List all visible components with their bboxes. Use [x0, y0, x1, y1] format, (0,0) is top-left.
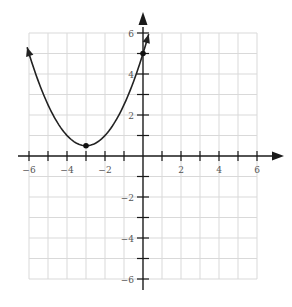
x-tick-label: −6: [22, 165, 36, 175]
x-tick-label: −4: [60, 165, 74, 175]
y-tick-label: −4: [121, 234, 135, 244]
y-tick-label: 6: [128, 29, 134, 39]
x-tick-label: 4: [216, 165, 222, 175]
y-intercept-point: [140, 51, 146, 57]
marked-points: [83, 51, 146, 149]
y-tick-label: 4: [128, 70, 134, 80]
coordinate-plane: −6−4−2246642−2−4−6: [0, 0, 292, 307]
y-tick-label: 2: [128, 111, 134, 121]
parabola-curve: [27, 34, 149, 146]
x-tick-label: 2: [178, 165, 184, 175]
x-tick-label: −2: [98, 165, 111, 175]
y-tick-label: −6: [121, 275, 135, 285]
y-tick-label: −2: [121, 193, 134, 203]
curve-left-arrow-icon: [26, 47, 33, 57]
y-axis-arrow-icon: [139, 12, 148, 25]
vertex-point: [83, 143, 89, 149]
x-axis-arrow-icon: [272, 152, 284, 161]
x-tick-label: 6: [254, 165, 260, 175]
